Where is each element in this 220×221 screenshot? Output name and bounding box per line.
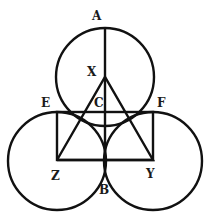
label-F: F bbox=[157, 96, 166, 110]
label-Z: Z bbox=[51, 169, 60, 183]
label-X: X bbox=[87, 65, 97, 79]
geometry-diagram: A X C E F Z Y B bbox=[0, 0, 220, 221]
label-A: A bbox=[91, 9, 102, 23]
lines bbox=[57, 28, 153, 160]
label-Y: Y bbox=[145, 167, 155, 181]
label-C: C bbox=[94, 96, 104, 110]
label-B: B bbox=[99, 183, 109, 197]
label-E: E bbox=[41, 96, 50, 110]
